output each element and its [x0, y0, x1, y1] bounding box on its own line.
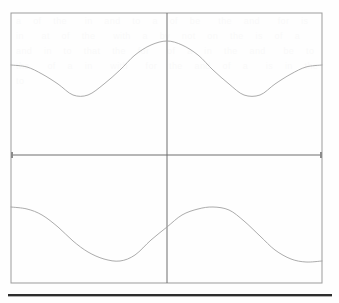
bottom-rule-shadow	[8, 296, 332, 297]
sinusoid-plot-figure	[0, 0, 339, 303]
